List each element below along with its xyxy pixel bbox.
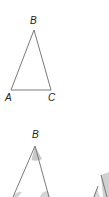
vertex-label-a: A [4, 92, 12, 103]
triangle-abc [11, 30, 51, 90]
bottom-triangle: B [13, 129, 50, 197]
angle-piece-1 [101, 172, 109, 197]
cut-angle-pieces [93, 172, 109, 197]
vertex-label-b-bottom: B [32, 129, 39, 140]
diagram-canvas: B A C B [0, 0, 109, 197]
vertex-label-b: B [30, 15, 37, 26]
side-bc [35, 146, 49, 197]
vertex-label-c: C [48, 92, 56, 103]
side-ba [13, 146, 35, 197]
top-triangle: B A C [4, 15, 56, 103]
